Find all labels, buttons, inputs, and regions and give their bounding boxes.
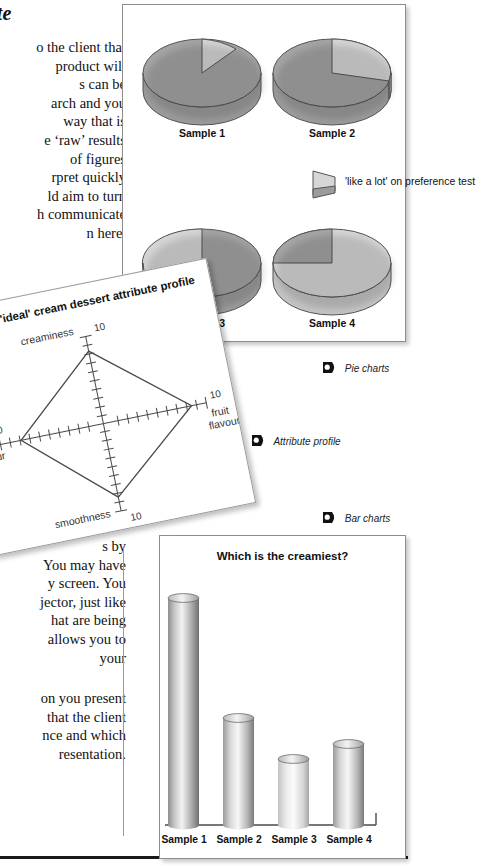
bar-chart-panel: Which is the creamiest?	[159, 535, 406, 859]
caption-attribute-profile: Attribute profile	[251, 434, 341, 450]
pie-shadow	[276, 45, 394, 119]
pie-chart-sample-1: Sample 1	[137, 23, 267, 127]
pie-label-sample-1: Sample 1	[137, 127, 267, 139]
caption-bar-charts: Bar charts	[322, 511, 390, 527]
bar-sample-2	[223, 714, 254, 830]
paragraph-bottom-2: on you present that the client nce and w…	[0, 689, 126, 763]
radar-axis-label-smoothness: smoothness	[54, 507, 112, 530]
radar-axis-max-colour: 10	[0, 424, 4, 437]
pie-shadow	[146, 45, 264, 119]
pie-legend: 'like a lot' on preference test	[305, 165, 480, 205]
pie-label-sample-4: Sample 4	[267, 317, 397, 329]
bar-sample-4	[333, 740, 364, 830]
bar-label-2: Sample 3	[263, 834, 325, 845]
pie-chart-sample-4: Sample 4	[267, 213, 397, 317]
pie-shadow	[276, 235, 394, 309]
radar-axis-max-smoothness: 10	[130, 510, 144, 523]
corner-shape-icon	[251, 434, 264, 447]
radar-chart-svg: creaminess 10 10 fruit flavour 10 colour…	[0, 292, 255, 556]
body-text-top: o the client that product will s can be …	[0, 38, 126, 256]
caption-label: Attribute profile	[273, 436, 340, 447]
legend-label: 'like a lot' on preference test	[345, 175, 475, 187]
radar-axis-max-fruit: 10	[209, 388, 223, 401]
radar-axis-label-colour: colour	[0, 449, 7, 467]
bar-label-3: Sample 4	[318, 834, 380, 845]
pie-label-sample-2: Sample 2	[267, 127, 397, 139]
body-text-bottom: s by You may have y screen. You jector, …	[0, 537, 126, 777]
caption-label: Pie charts	[345, 363, 389, 374]
radar-axis-max-creaminess: 10	[93, 320, 107, 333]
column-divider-rule	[123, 546, 124, 836]
bar-label-1: Sample 2	[208, 834, 270, 845]
corner-shape-icon	[322, 511, 335, 524]
bar-label-0: Sample 1	[153, 834, 215, 845]
paragraph-bottom-1: s by You may have y screen. You jector, …	[0, 537, 126, 667]
caption-label: Bar charts	[345, 513, 391, 524]
paragraph-top: o the client that product will s can be …	[0, 38, 126, 243]
corner-shape-icon	[322, 361, 335, 374]
radar-axis-label-creaminess: creaminess	[19, 325, 74, 347]
bar-sample-1	[168, 594, 199, 830]
legend-swatch-icon	[305, 165, 345, 205]
caption-pie-charts: Pie charts	[322, 361, 389, 377]
pie-chart-sample-2: Sample 2	[267, 23, 397, 127]
bar-category-labels: Sample 1 Sample 2 Sample 3 Sample 4	[160, 834, 405, 850]
bar-chart-svg	[160, 536, 405, 836]
bar-sample-3	[278, 755, 309, 830]
